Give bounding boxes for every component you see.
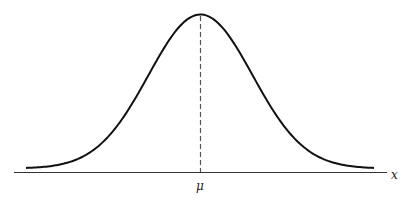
x-axis-label: x: [391, 169, 398, 181]
mean-label: μ: [196, 180, 204, 192]
normal-curve-chart: [0, 0, 408, 201]
